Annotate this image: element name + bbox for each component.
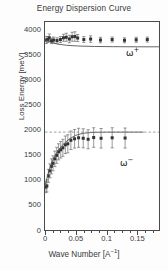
x-axis-minor-tick [107,231,108,233]
data-point [56,39,59,42]
omega-minus-label: ω− [120,156,133,168]
x-axis-title: Wave Number [A−1] [0,248,168,259]
data-point [87,138,90,141]
plot-inner [45,22,159,230]
data-point [45,184,48,187]
y-tick-label: 1500 [1,150,41,159]
x-tick-label: 0 [30,234,60,243]
data-point [123,39,126,42]
data-point [124,137,127,140]
data-point [69,139,72,142]
data-point [82,38,85,41]
x-axis-minor-tick [114,231,115,233]
data-point [71,35,74,38]
data-point [73,137,76,140]
x-axis-minor-tick [53,231,54,233]
omega-plus-label: ω+ [126,46,139,58]
data-point [135,38,138,41]
data-point [73,35,76,38]
y-tick-label: 2500 [1,100,41,109]
omega-minus-data [45,128,127,193]
data-point [59,38,62,41]
data-point [52,39,55,42]
data-point [66,142,69,145]
y-tick-label: 1000 [1,175,41,184]
data-point [76,37,79,40]
x-axis-minor-tick [130,231,131,233]
data-point [62,36,65,39]
chart-title: Energy Dispersion Curve [0,4,168,13]
data-point [111,38,114,41]
y-tick-label: 500 [1,200,41,209]
y-tick-label: 3000 [1,75,41,84]
x-tick-label: 0.15 [122,234,152,243]
data-point [77,136,80,139]
data-point [100,137,103,140]
data-point [111,136,114,139]
data-point [82,137,85,140]
data-point [68,38,71,41]
data-point [65,36,68,39]
fit-curve [45,40,159,47]
data-point [61,146,64,149]
plot-svg [45,22,159,230]
data-point [89,38,92,41]
x-axis-minor-tick [145,231,146,233]
x-axis-minor-tick [68,231,69,233]
y-tick-label: 4000 [1,25,41,34]
energy-dispersion-chart: Energy Dispersion Curve Loss Energy [meV… [0,0,168,270]
x-tick-label: 0.05 [61,234,91,243]
data-point [99,39,102,42]
data-point [92,136,95,139]
x-axis-minor-tick [91,231,92,233]
x-axis-minor-tick [99,231,100,233]
omega-plus-data [45,32,149,44]
x-axis-minor-tick [122,231,123,233]
x-axis-minor-tick [84,231,85,233]
plot-area [44,21,160,231]
x-axis-minor-tick [60,231,61,233]
x-axis-minor-tick [153,231,154,233]
y-tick-label: 2000 [1,125,41,134]
omega-plus-fit [45,40,159,47]
data-point [146,38,149,41]
y-axis-tick-labels: 05001000150020002500300035004000 [0,21,41,231]
x-tick-label: 0.1 [92,234,122,243]
y-tick-label: 3500 [1,50,41,59]
